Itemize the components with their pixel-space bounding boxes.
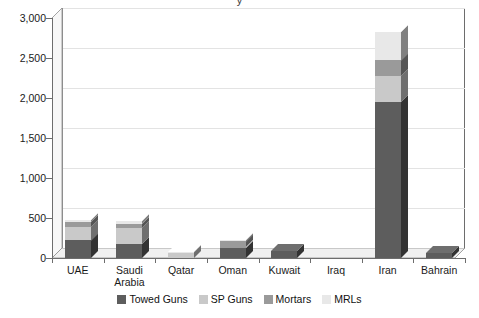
- bar-segment[interactable]: [220, 240, 246, 242]
- bar-segment-front-face: [65, 222, 91, 227]
- y-axis-tick-label: 2,000: [20, 92, 46, 104]
- bar-segment[interactable]: [116, 221, 142, 224]
- bar-segment[interactable]: [271, 251, 297, 258]
- bar-segment-front-face: [65, 227, 91, 241]
- bar-segment-front-face: [375, 102, 401, 258]
- bar-segment-front-face: [116, 221, 142, 224]
- legend-swatch-icon: [264, 295, 273, 304]
- x-axis-tick-mark: [207, 258, 208, 263]
- legend-label: Towed Guns: [129, 293, 187, 305]
- legend-item[interactable]: Mortars: [264, 293, 312, 305]
- bar-segment[interactable]: [375, 60, 401, 76]
- y-axis-tick-label: 1,500: [20, 132, 46, 144]
- bar-segment[interactable]: [65, 220, 91, 222]
- bar-segment[interactable]: [375, 32, 401, 61]
- bar-segment[interactable]: [116, 224, 142, 228]
- x-axis-tick-mark: [259, 258, 260, 263]
- x-axis-tick-mark: [155, 258, 156, 263]
- bar-column[interactable]: [65, 220, 91, 258]
- legend-item[interactable]: SP Guns: [199, 293, 253, 305]
- legend-swatch-icon: [322, 295, 331, 304]
- legend-swatch-icon: [117, 295, 126, 304]
- y-axis-labels: 05001,0001,5002,0002,5003,000: [0, 0, 52, 318]
- bar-segment[interactable]: [220, 241, 246, 247]
- bar-segment-front-face: [375, 32, 401, 61]
- bar-column[interactable]: [375, 32, 401, 258]
- x-axis-category-label: Bahrain: [421, 265, 457, 277]
- x-axis-tick-mark: [52, 258, 53, 263]
- bar-segment-front-face: [375, 60, 401, 76]
- bar-column[interactable]: [271, 251, 297, 258]
- x-axis-category-label: Iraq: [327, 265, 345, 277]
- bar-segment[interactable]: [375, 76, 401, 102]
- x-axis-tick-mark: [362, 258, 363, 263]
- bar-segment-front-face: [220, 248, 246, 258]
- bar-segment[interactable]: [65, 240, 91, 258]
- bar-segment[interactable]: [375, 102, 401, 258]
- y-axis-line-back: [62, 8, 63, 248]
- legend-item[interactable]: Towed Guns: [117, 293, 187, 305]
- bar-segment[interactable]: [65, 222, 91, 227]
- bar-segment-front-face: [65, 240, 91, 258]
- x-axis-category-label: Saudi Arabia: [114, 265, 144, 288]
- bar-segment[interactable]: [220, 248, 246, 258]
- x-axis-category-label: UAE: [67, 265, 89, 277]
- chart-root: y 05001,0001,5002,0002,5003,000 UAESaudi…: [0, 0, 479, 318]
- legend-item[interactable]: MRLs: [322, 293, 361, 305]
- bar-column[interactable]: [220, 240, 246, 258]
- legend-swatch-icon: [199, 295, 208, 304]
- bar-segment-front-face: [116, 244, 142, 258]
- chart-legend: Towed GunsSP GunsMortarsMRLs: [0, 291, 479, 307]
- legend-label: SP Guns: [211, 293, 253, 305]
- gridline: [62, 8, 465, 9]
- y-axis-tick-label: 2,500: [20, 52, 46, 64]
- y-axis-tick-label: 500: [28, 212, 46, 224]
- plot-area: [52, 18, 465, 258]
- y-axis-tick-label: 1,000: [20, 172, 46, 184]
- x-axis-tick-mark: [104, 258, 105, 263]
- y-axis-tick-label: 3,000: [20, 12, 46, 24]
- legend-label: Mortars: [276, 293, 312, 305]
- chart-title-cropped: y: [0, 0, 479, 7]
- bar-segment[interactable]: [65, 227, 91, 241]
- bar-segment[interactable]: [168, 252, 194, 253]
- x-axis-category-label: Qatar: [168, 265, 194, 277]
- x-axis-tick-mark: [413, 258, 414, 263]
- x-axis-category-label: Iran: [379, 265, 397, 277]
- bar-segment-front-face: [65, 220, 91, 222]
- x-axis-tick-mark: [465, 258, 466, 263]
- bar-segment-front-face: [375, 76, 401, 102]
- bar-segment[interactable]: [116, 228, 142, 244]
- x-axis-tick-mark: [310, 258, 311, 263]
- bar-segment-front-face: [116, 228, 142, 244]
- legend-label: MRLs: [334, 293, 361, 305]
- chart-title-text: y: [237, 0, 243, 6]
- bar-segment-side-face: [401, 95, 408, 258]
- bar-segment-front-face: [220, 241, 246, 247]
- x-axis-category-label: Oman: [218, 265, 247, 277]
- bar-column[interactable]: [116, 221, 142, 258]
- bar-segment-front-face: [271, 251, 297, 258]
- x-axis-category-label: Kuwait: [269, 265, 301, 277]
- y-axis-line: [52, 18, 53, 258]
- bar-segment[interactable]: [116, 244, 142, 258]
- bar-segment-front-face: [116, 224, 142, 228]
